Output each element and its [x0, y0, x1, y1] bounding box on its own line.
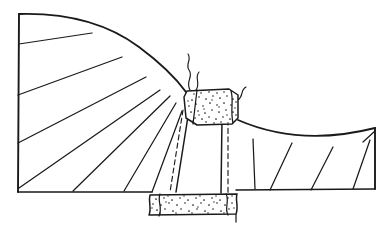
cross-section-figure	[0, 0, 387, 235]
left-block-west-edge	[18, 14, 19, 192]
cross-section-drawing	[0, 0, 387, 235]
right-block-baseline	[236, 189, 375, 190]
dike-east-wall-solid	[221, 118, 222, 193]
crest-intrusive-body	[184, 89, 238, 125]
basal-intrusive-body	[149, 194, 237, 216]
